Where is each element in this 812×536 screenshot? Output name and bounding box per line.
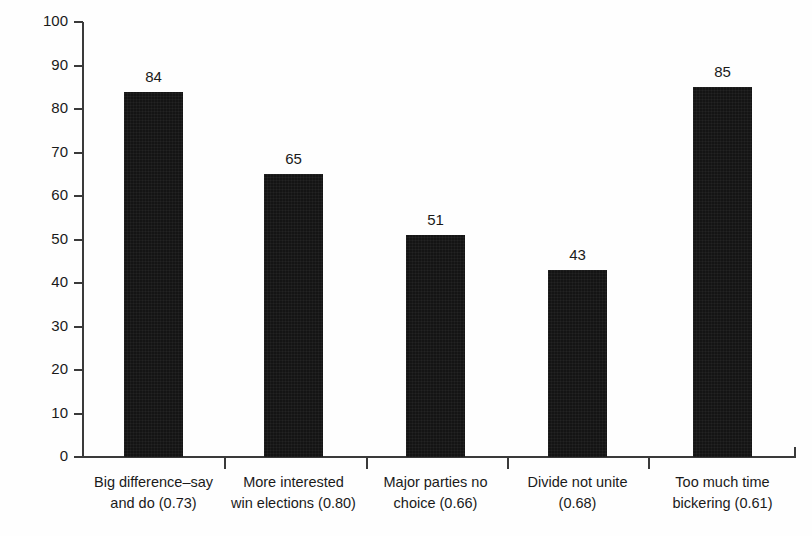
bar-value-label: 43: [538, 246, 618, 263]
y-tick-label-80: 80: [10, 99, 68, 116]
y-tick-mark-80: [74, 108, 83, 110]
x-tick-mark-1: [224, 458, 226, 469]
y-tick-mark-90: [74, 65, 83, 67]
y-tick-label-60: 60: [10, 186, 68, 203]
y-tick-mark-100: [74, 21, 83, 23]
x-category-label-line1: Divide not unite: [528, 474, 628, 490]
y-tick-label-40: 40: [10, 273, 68, 290]
y-tick-label-100: 100: [10, 12, 68, 29]
bar: [124, 92, 183, 457]
y-tick-mark-50: [74, 239, 83, 241]
y-tick-mark-10: [74, 413, 83, 415]
y-tick-label-0: 0: [10, 447, 68, 464]
x-category-label-line1: Too much time: [675, 474, 769, 490]
x-axis-end-tick: [794, 447, 796, 458]
y-tick-mark-0: [74, 456, 83, 458]
bar-value-label: 65: [254, 150, 334, 167]
y-tick-mark-30: [74, 326, 83, 328]
x-category-label-line1: More interested: [243, 474, 344, 490]
y-tick-label-30: 30: [10, 317, 68, 334]
y-tick-label-10: 10: [10, 404, 68, 421]
y-tick-label-50: 50: [10, 230, 68, 247]
y-tick-mark-20: [74, 369, 83, 371]
x-tick-mark-4: [648, 458, 650, 469]
y-tick-label-70: 70: [10, 143, 68, 160]
x-tick-mark-3: [507, 458, 509, 469]
bar-value-label: 85: [683, 63, 763, 80]
y-tick-label-20: 20: [10, 360, 68, 377]
y-tick-label-90: 90: [10, 56, 68, 73]
y-tick-mark-40: [74, 282, 83, 284]
x-category-label-line1: Major parties no: [384, 474, 488, 490]
bar: [406, 235, 465, 457]
bar-value-label: 84: [114, 68, 194, 85]
x-tick-mark-2: [366, 458, 368, 469]
x-category-label-line2: bickering (0.61): [638, 493, 808, 514]
y-tick-mark-70: [74, 152, 83, 154]
bar: [548, 270, 607, 457]
bar: [264, 174, 323, 457]
bar-value-label: 51: [396, 211, 476, 228]
x-category-label-line1: Big difference–say: [94, 474, 213, 490]
x-category-label: Too much timebickering (0.61): [638, 472, 808, 514]
bar: [693, 87, 752, 457]
bar-chart-figure: Per cent agree 1009080706050403020100 84…: [0, 0, 812, 536]
y-tick-mark-60: [74, 195, 83, 197]
